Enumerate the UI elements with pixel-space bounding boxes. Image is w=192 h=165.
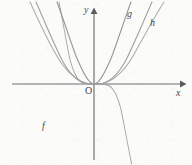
graph-canvas: [0, 0, 192, 165]
curve-f: [59, 2, 132, 164]
curve-label-f: f: [42, 121, 45, 131]
curve-label-h: h: [150, 18, 155, 28]
y-axis-label: y: [84, 5, 88, 15]
x-axis-arrowhead: [180, 81, 187, 88]
origin-label: O: [85, 86, 92, 96]
curve-label-g: g: [127, 9, 132, 19]
x-axis-label: x: [176, 88, 180, 98]
curve-h-outer: [30, 2, 164, 84]
power-function-figure: f g h x y O: [0, 0, 192, 165]
y-axis-arrowhead: [91, 8, 98, 15]
